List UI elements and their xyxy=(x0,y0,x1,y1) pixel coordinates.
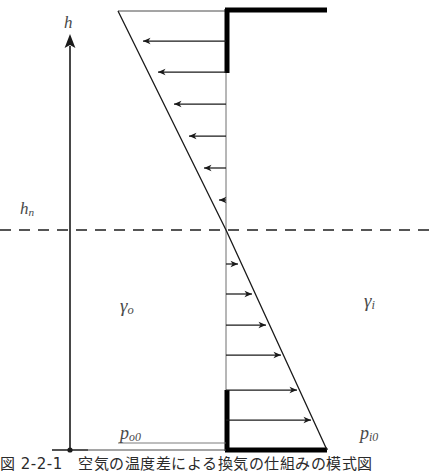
outside-air-density-label: γo xyxy=(120,296,134,317)
inside-base-pressure-label: pi0 xyxy=(360,424,378,444)
height-axis xyxy=(52,34,88,453)
outward-pressure-arrows xyxy=(226,264,311,420)
height-axis-label: h xyxy=(64,14,73,31)
outside-base-pressure-label: po0 xyxy=(120,424,141,444)
inward-pressure-arrows xyxy=(143,41,226,200)
height-axis-arrowhead xyxy=(65,34,76,48)
figure-caption: 図 2-2-1 空気の温度差による換気の仕組みの模式図 xyxy=(0,452,434,473)
neutral-plane-label: hn xyxy=(20,200,34,218)
inside-air-density-label: γi xyxy=(364,291,375,312)
